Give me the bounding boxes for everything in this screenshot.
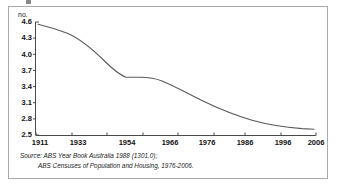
x-tick-1996: 1996 <box>270 139 296 147</box>
x-tick-1954: 1954 <box>114 139 140 147</box>
x-tick-1966: 1966 <box>157 139 183 147</box>
source-note-line-1: Source: ABS Year Book Australia 1988 (13… <box>20 151 310 161</box>
y-tick-3.4: 3.4 <box>14 83 32 91</box>
y-tick-2.5: 2.5 <box>14 131 32 139</box>
y-tick-2.8: 2.8 <box>14 115 32 123</box>
y-tick-4.6: 4.6 <box>14 18 32 26</box>
source-note-line-2: ABS Censuses of Population and Housing, … <box>20 161 310 171</box>
y-tick-3.7: 3.7 <box>14 67 32 75</box>
x-tick-1933: 1933 <box>65 139 91 147</box>
chart-figure: no. 4 <box>0 0 338 188</box>
y-tick-4.0: 4.0 <box>14 51 32 59</box>
x-tick-1911: 1911 <box>27 139 53 147</box>
y-tick-4.3: 4.3 <box>14 34 32 42</box>
x-tick-1976: 1976 <box>194 139 220 147</box>
y-tick-3.1: 3.1 <box>14 99 32 107</box>
scan-artefact-mark <box>26 0 31 4</box>
x-tick-1986: 1986 <box>232 139 258 147</box>
x-tick-2006: 2006 <box>303 139 329 147</box>
source-note: Source: ABS Year Book Australia 1988 (13… <box>20 151 310 170</box>
